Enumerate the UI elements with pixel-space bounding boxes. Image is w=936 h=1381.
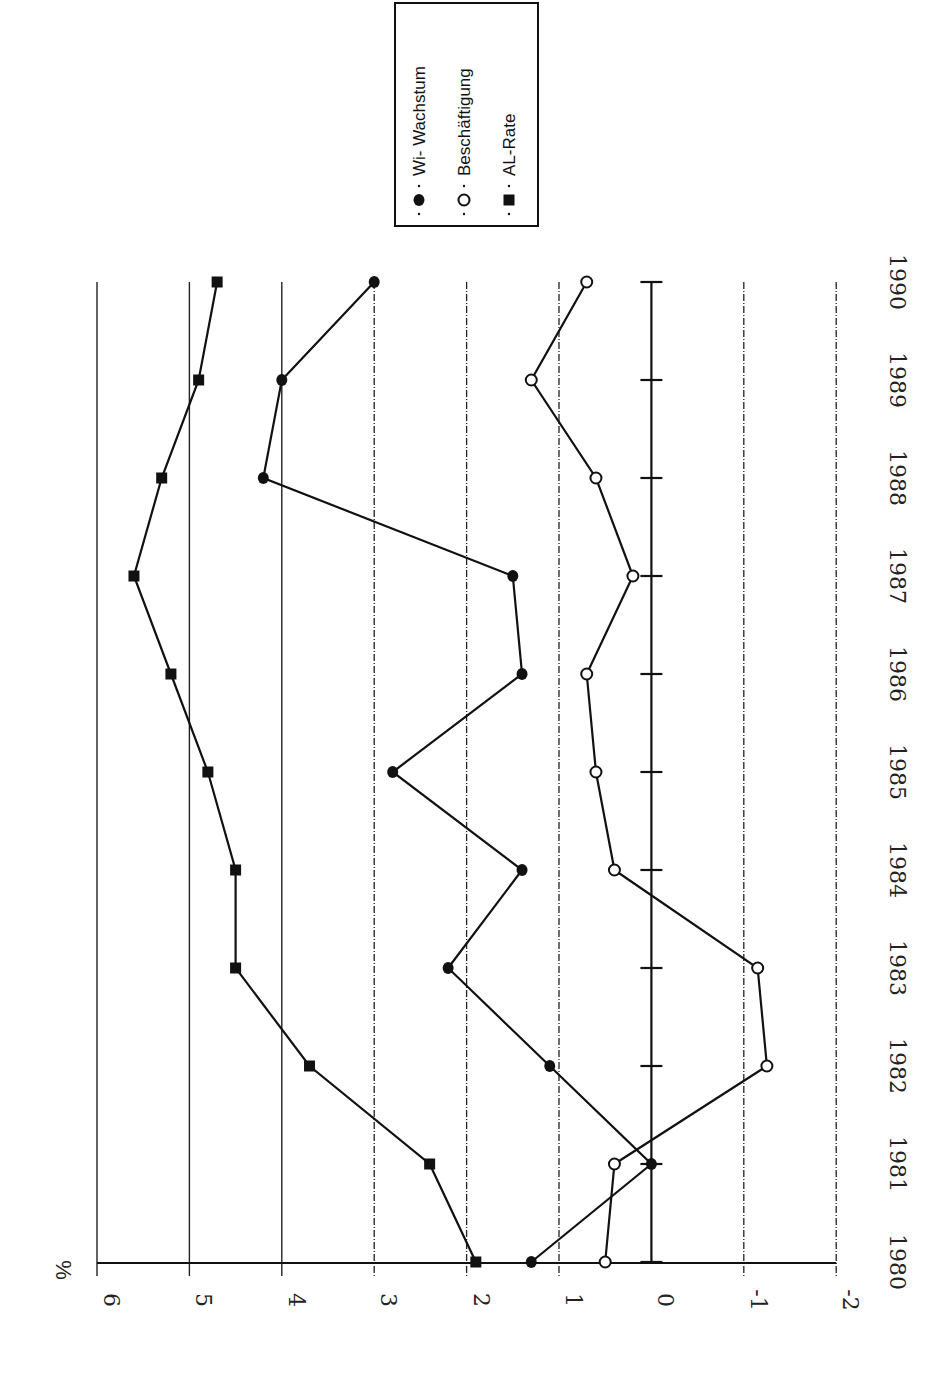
data-point-filled-circle	[387, 766, 398, 778]
legend-dot-icon	[508, 213, 510, 215]
y-tick-label: -2	[838, 1289, 863, 1310]
legend-marker-icon	[504, 195, 515, 206]
data-point-filled-square	[230, 865, 241, 876]
y-tick-label: 1	[561, 1293, 586, 1307]
legend: Wi- WachstumBeschäftigungAL-Rate	[395, 3, 538, 226]
x-tick-label: 1989	[885, 352, 910, 408]
data-point-filled-square	[470, 1257, 481, 1268]
data-point-filled-square	[193, 375, 204, 386]
data-point-filled-circle	[544, 1060, 555, 1072]
x-tick-label: 1980	[885, 1234, 910, 1290]
line-chart: 654321-1-2019801981198219831984198519861…	[0, 0, 936, 1381]
data-point-open-circle	[590, 473, 601, 484]
data-point-filled-square	[230, 963, 241, 974]
data-point-filled-circle	[517, 668, 528, 680]
y-tick-label: 2	[469, 1293, 494, 1307]
legend-marker-icon	[414, 194, 425, 206]
data-point-open-circle	[627, 571, 638, 582]
legend-label: Beschäftigung	[455, 68, 474, 176]
x-tick-label: 1983	[885, 940, 910, 996]
data-point-filled-square	[424, 1159, 435, 1170]
legend-dot-icon	[508, 185, 510, 187]
series-al-rate	[128, 277, 481, 1268]
data-point-open-circle	[752, 963, 763, 974]
data-series	[128, 276, 772, 1268]
data-point-open-circle	[581, 669, 592, 680]
data-point-filled-square	[212, 277, 223, 288]
y-tick-label: -1	[746, 1289, 771, 1310]
unit-label: %	[51, 1260, 76, 1280]
series-line	[134, 282, 476, 1262]
x-tick-label: 1990	[885, 254, 910, 310]
x-tick-label: 1986	[885, 646, 910, 702]
data-point-filled-circle	[507, 570, 518, 582]
data-point-filled-square	[128, 571, 139, 582]
data-point-open-circle	[761, 1061, 772, 1072]
y-tick-label: 5	[191, 1293, 216, 1307]
y-tick-label: 4	[284, 1293, 309, 1307]
legend-marker-icon	[459, 195, 470, 206]
y-tick-label: 0	[653, 1293, 678, 1307]
data-point-filled-circle	[646, 1158, 657, 1170]
x-tick-label: 1987	[885, 548, 910, 604]
gridlines	[97, 282, 836, 1276]
data-point-filled-square	[156, 473, 167, 484]
data-point-open-circle	[609, 865, 620, 876]
legend-dot-icon	[418, 213, 420, 215]
legend-dot-icon	[463, 185, 465, 187]
data-point-open-circle	[609, 1159, 620, 1170]
data-point-open-circle	[581, 277, 592, 288]
data-point-open-circle	[600, 1257, 611, 1268]
y-tick-label: 6	[99, 1293, 124, 1307]
legend-label: Wi- Wachstum	[410, 66, 429, 176]
x-tick-label: 1981	[885, 1136, 910, 1192]
axis-labels: 654321-1-2019801981198219831984198519861…	[51, 254, 910, 1311]
data-point-filled-square	[202, 767, 213, 778]
data-point-open-circle	[526, 375, 537, 386]
x-tick-label: 1984	[885, 842, 910, 898]
data-point-filled-circle	[526, 1256, 537, 1268]
legend-label: AL-Rate	[500, 114, 519, 176]
data-point-open-circle	[590, 767, 601, 778]
data-point-filled-circle	[517, 864, 528, 876]
x-tick-label: 1982	[885, 1038, 910, 1094]
y-tick-label: 3	[376, 1293, 401, 1307]
legend-dot-icon	[418, 185, 420, 187]
data-point-filled-square	[304, 1061, 315, 1072]
legend-dot-icon	[463, 213, 465, 215]
data-point-filled-circle	[258, 472, 269, 484]
data-point-filled-circle	[369, 276, 380, 288]
x-tick-label: 1985	[885, 744, 910, 800]
x-tick-label: 1988	[885, 450, 910, 506]
data-point-filled-circle	[276, 374, 287, 386]
data-point-filled-square	[165, 669, 176, 680]
data-point-filled-circle	[443, 962, 454, 974]
